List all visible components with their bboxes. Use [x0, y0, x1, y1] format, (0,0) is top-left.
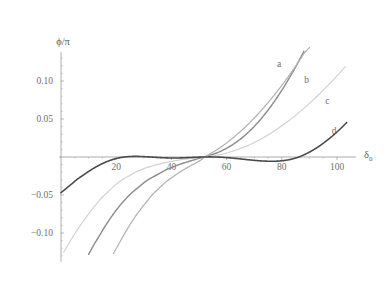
- y-axis-title: ϕ/π: [56, 36, 70, 47]
- x-tick-label: 100: [330, 162, 345, 172]
- curve-labels-group: abcd: [277, 59, 337, 136]
- curve-b: [113, 48, 309, 254]
- curve-label-a: a: [277, 59, 282, 69]
- x-tick-label: 80: [277, 162, 287, 172]
- y-tick-label: 0.10: [36, 76, 53, 86]
- phi-vs-delta0-plot: 20406080100 −0.10−0.050.050.10 ϕ/π δ0 ab…: [0, 0, 389, 289]
- y-tick-label: −0.10: [31, 228, 53, 238]
- x-tick-label: 60: [222, 162, 232, 172]
- y-axis-tick-labels: −0.10−0.050.050.10: [31, 76, 53, 238]
- y-tick-label: 0.05: [36, 114, 53, 124]
- x-axis-tick-labels: 20406080100: [111, 162, 344, 172]
- curve-label-b: b: [304, 75, 309, 85]
- y-tick-label: −0.05: [31, 190, 53, 200]
- curve-a: [89, 51, 304, 254]
- plot-figure: 20406080100 −0.10−0.050.050.10 ϕ/π δ0 ab…: [0, 0, 389, 289]
- curve-d: [61, 123, 347, 193]
- curve-label-d: d: [332, 126, 337, 136]
- x-axis-title: δ0: [364, 149, 373, 163]
- x-axis-title-subscript: 0: [369, 155, 373, 163]
- x-tick-label: 20: [111, 162, 121, 172]
- curve-label-c: c: [325, 96, 329, 106]
